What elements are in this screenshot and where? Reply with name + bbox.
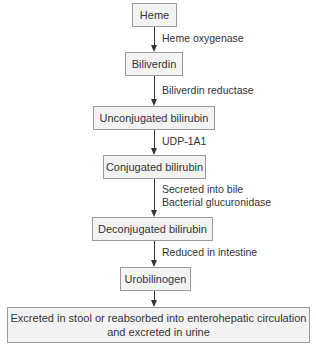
- edge-label-bacterial-glucuronidase: Bacterial glucuronidase: [162, 196, 271, 209]
- node-conjugated-label: Conjugated bilirubin: [106, 160, 203, 174]
- node-excreted-label-line1: Excreted in stool or reabsorbed into ent…: [11, 311, 307, 325]
- node-heme: Heme: [132, 3, 177, 27]
- node-deconjugated-bilirubin: Deconjugated bilirubin: [92, 217, 213, 241]
- arrowhead-icon: [151, 300, 157, 307]
- edge-label-heme-oxygenase: Heme oxygenase: [162, 32, 244, 45]
- arrowhead-icon: [151, 99, 157, 106]
- arrow-biliverdin-to-unconjugated: [154, 76, 155, 100]
- arrow-deconjugated-to-urobilinogen: [154, 241, 155, 261]
- node-biliverdin: Biliverdin: [125, 52, 183, 76]
- node-biliverdin-label: Biliverdin: [132, 57, 177, 71]
- arrow-unconjugated-to-conjugated: [154, 130, 155, 149]
- node-urobilinogen: Urobilinogen: [120, 267, 191, 291]
- arrowhead-icon: [151, 45, 157, 52]
- edge-label-reduced-in-intestine: Reduced in intestine: [162, 246, 257, 259]
- node-deconjugated-label: Deconjugated bilirubin: [98, 222, 207, 236]
- arrow-heme-to-biliverdin: [154, 27, 155, 46]
- node-heme-label: Heme: [140, 8, 169, 22]
- node-conjugated-bilirubin: Conjugated bilirubin: [103, 155, 206, 179]
- node-urobilinogen-label: Urobilinogen: [125, 272, 187, 286]
- node-unconjugated-label: Unconjugated bilirubin: [100, 111, 209, 125]
- edge-label-biliverdin-reductase: Biliverdin reductase: [162, 84, 254, 97]
- arrowhead-icon: [151, 148, 157, 155]
- node-excreted-label-line2: and excreted in urine: [107, 325, 210, 339]
- edge-label-udp-1a1: UDP-1A1: [162, 135, 206, 148]
- node-excreted: Excreted in stool or reabsorbed into ent…: [7, 307, 310, 343]
- arrow-conjugated-to-deconjugated: [154, 179, 155, 211]
- arrowhead-icon: [151, 260, 157, 267]
- arrowhead-icon: [151, 210, 157, 217]
- edge-label-secreted-into-bile: Secreted into bile: [162, 183, 243, 196]
- node-unconjugated-bilirubin: Unconjugated bilirubin: [93, 106, 215, 130]
